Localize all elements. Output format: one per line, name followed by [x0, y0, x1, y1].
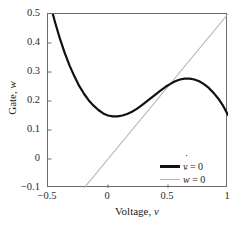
- legend-swatch-icon: [160, 165, 180, 167]
- x-tick-label: −0.5: [27, 190, 67, 201]
- x-axis-title-prefix: Voltage,: [115, 205, 154, 217]
- legend-equals: = 0: [190, 174, 206, 185]
- figure: 0.5 0.4 0.3 0.2 0.1 0 −0.1 −0.5 0 0.5 1 …: [0, 0, 246, 235]
- legend: v = 0 w = 0: [160, 160, 222, 186]
- y-axis-title-variable: w: [6, 81, 18, 88]
- x-axis-title-variable: v: [154, 205, 159, 217]
- y-tick-label: 0.5: [0, 8, 40, 18]
- series-line-v-nullcline: [53, 14, 228, 116]
- legend-label: w = 0: [183, 174, 205, 185]
- y-axis-title-prefix: Gate,: [6, 89, 18, 115]
- y-axis-title: Gate, w: [6, 58, 18, 138]
- x-tick-label: 0: [87, 190, 127, 201]
- x-tick-label: 0.5: [147, 190, 187, 201]
- y-tick-label: 0.4: [0, 37, 40, 47]
- legend-equals: = 0: [187, 161, 203, 172]
- x-tick-label: 1: [207, 190, 246, 201]
- legend-item-v-nullcline: v = 0: [160, 160, 222, 173]
- legend-variable: w: [183, 174, 190, 185]
- y-tick-label: 0: [0, 153, 40, 163]
- legend-item-w-nullcline: w = 0: [160, 173, 222, 186]
- legend-swatch-icon: [160, 179, 180, 180]
- x-axis-title: Voltage, v: [47, 205, 227, 217]
